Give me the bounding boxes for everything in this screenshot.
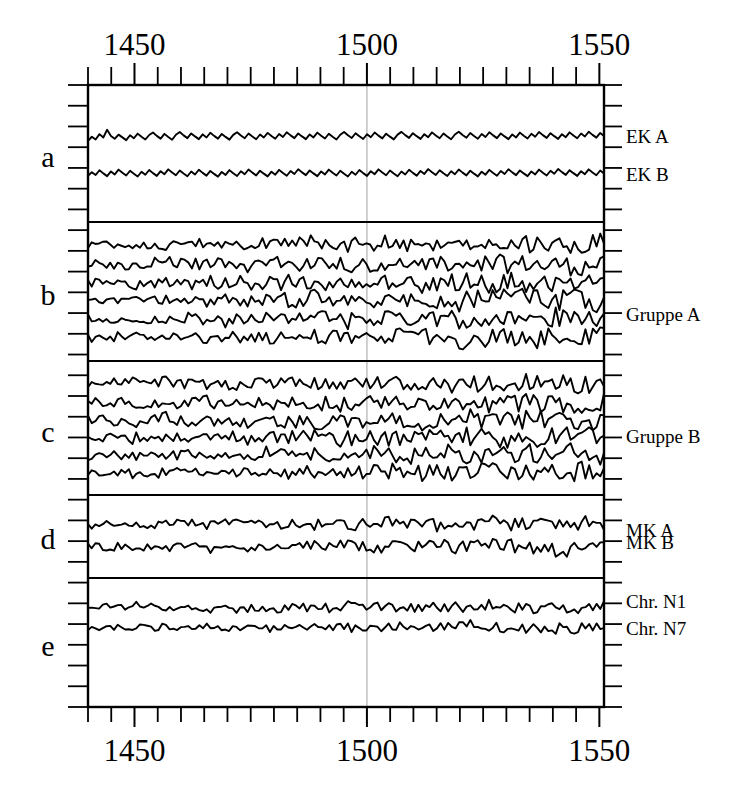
series-label-chr-n7: Chr. N7 (626, 618, 686, 639)
x-axis-label-bottom-1550: 1550 (568, 733, 630, 768)
series-label-gruppe-a: Gruppe A (626, 304, 701, 325)
panel-letter-a: a (41, 140, 54, 173)
x-axis-label-top-1500: 1500 (336, 27, 398, 62)
series-label-mk-b: MK B (626, 532, 674, 553)
panel-letter-c: c (41, 415, 54, 448)
series-label-ek-b: EK B (626, 164, 669, 185)
series-label-gruppe-b: Gruppe B (626, 426, 700, 447)
panel-letter-e: e (41, 629, 54, 662)
spectra-multipanel-chart: 145015001550 145015001550 abcde EK AEK B… (0, 0, 739, 798)
series-label-chr-n1: Chr. N1 (626, 591, 686, 612)
chart-background (0, 0, 739, 798)
series-label-ek-a: EK A (626, 126, 669, 147)
panel-letter-b: b (41, 278, 56, 311)
x-axis-label-top-1450: 1450 (103, 27, 165, 62)
figure-root: 145015001550 145015001550 abcde EK AEK B… (0, 0, 739, 798)
x-axis-label-bottom-1500: 1500 (336, 733, 398, 768)
x-axis-label-top-1550: 1550 (568, 27, 630, 62)
panel-letter-d: d (41, 522, 56, 555)
x-axis-label-bottom-1450: 1450 (103, 733, 165, 768)
